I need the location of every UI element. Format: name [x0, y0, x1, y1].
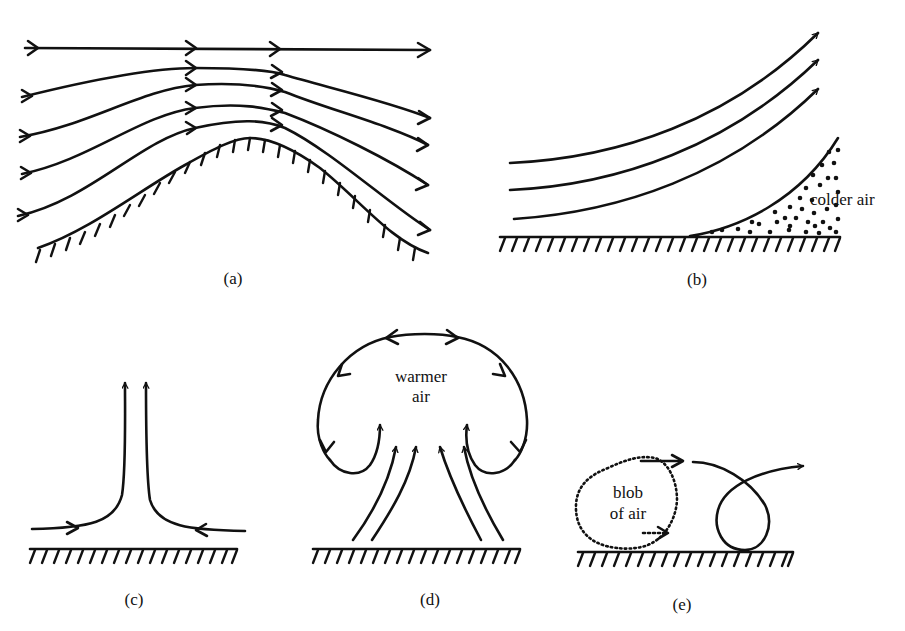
right-rising-stream — [146, 383, 245, 531]
label-of-air: of air — [610, 504, 647, 523]
atmospheric-flow-diagram: (a) — [0, 0, 905, 631]
right-return-loop — [466, 425, 515, 473]
caption-a: (a) — [224, 269, 243, 288]
panel-d: warmer air (d) — [313, 330, 527, 609]
label-warmer: warmer — [395, 367, 447, 386]
caption-c: (c) — [125, 590, 144, 609]
streamline-2 — [22, 68, 430, 118]
hill-surface — [38, 138, 428, 253]
caption-d: (d) — [420, 590, 440, 609]
arrow-icon-group — [18, 41, 430, 235]
panel-e: blob of air (e) — [576, 455, 803, 614]
streamline-1 — [25, 48, 430, 50]
label-blob: blob — [613, 483, 643, 502]
panel-b: colder air (b) — [500, 33, 875, 289]
hill-hatching — [36, 138, 415, 262]
ground-hatching — [500, 238, 840, 251]
ground-hatching — [30, 550, 237, 563]
blob-outline — [576, 457, 677, 548]
dome-top — [390, 334, 457, 337]
arrow-icon — [493, 364, 505, 376]
label-colder-air: colder air — [810, 190, 875, 209]
ground-hatching — [313, 550, 520, 563]
plume-1 — [353, 447, 396, 540]
ground-hatching — [578, 553, 793, 566]
streamline-3 — [514, 89, 818, 219]
left-return-loop — [330, 425, 380, 473]
plume-4 — [464, 447, 503, 540]
rolling-loop-trajectory — [693, 462, 803, 550]
panel-a: (a) — [18, 41, 430, 288]
panel-c: (c) — [30, 383, 245, 609]
arrow-icon — [511, 440, 526, 452]
caption-e: (e) — [673, 595, 692, 614]
cold-front-boundary — [690, 138, 838, 236]
streamline-2 — [510, 60, 818, 190]
left-rising-stream — [32, 383, 125, 529]
label-air: air — [412, 387, 430, 406]
streamline-3 — [20, 84, 428, 145]
plume-3 — [440, 447, 481, 540]
caption-b: (b) — [687, 270, 707, 289]
